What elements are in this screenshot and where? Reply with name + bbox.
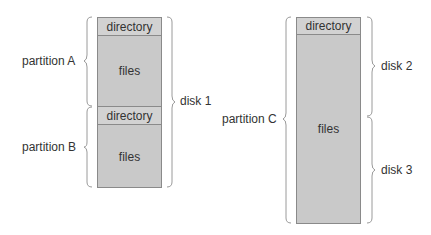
partition-b-files: files xyxy=(98,125,161,188)
disk-1-label: disk 1 xyxy=(180,94,211,108)
partition-b-label: partition B xyxy=(22,140,76,154)
partition-c-label: partition C xyxy=(222,112,277,126)
disk-1-box: directory files directory files xyxy=(97,17,162,188)
partition-a-label: partition A xyxy=(22,54,75,68)
disk-3-label: disk 3 xyxy=(381,163,412,177)
partition-b-brace-icon xyxy=(84,107,94,188)
block-label: files xyxy=(119,64,140,78)
partition-a-files: files xyxy=(98,36,161,107)
disk-2-label: disk 2 xyxy=(381,59,412,73)
partition-a-brace-icon xyxy=(84,17,94,107)
disk-2-brace-icon xyxy=(367,17,377,117)
partition-c-box: directory files xyxy=(296,17,361,224)
block-label: directory xyxy=(305,19,351,33)
block-label: directory xyxy=(106,20,152,34)
partition-a-directory: directory xyxy=(98,18,161,36)
block-label: files xyxy=(318,122,339,136)
partition-c-brace-icon xyxy=(283,17,293,224)
disk-3-brace-icon xyxy=(367,117,377,224)
disk-1-brace-icon xyxy=(167,17,177,188)
partition-c-directory: directory xyxy=(297,18,360,35)
partition-c-files: files xyxy=(297,35,360,223)
block-label: files xyxy=(119,150,140,164)
block-label: directory xyxy=(106,109,152,123)
partition-b-directory: directory xyxy=(98,107,161,125)
